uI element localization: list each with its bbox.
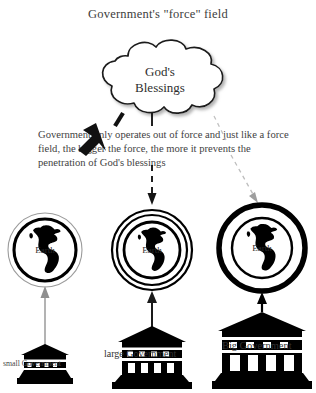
earth-label-large: Earth (121, 245, 183, 255)
earth-label-small: Earth (14, 245, 76, 255)
label-big-government: Big Government (222, 340, 292, 351)
infographic-canvas: Government's "force" field God's Blessin… (0, 0, 316, 393)
label-large-government: large Government (104, 348, 176, 359)
earth-label-big: Earth (231, 243, 293, 253)
force-arrow-large-government (147, 291, 157, 330)
force-arrow-big-government (257, 292, 267, 312)
label-small-government: small Government (3, 359, 61, 368)
force-arrow-small-government (41, 286, 50, 345)
globes-and-buildings-layer (0, 0, 316, 393)
